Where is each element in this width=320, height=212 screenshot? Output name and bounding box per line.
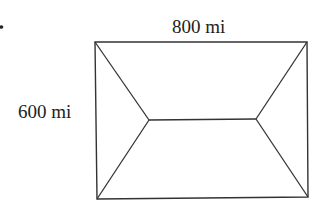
outer-rectangle xyxy=(95,42,308,199)
ridge-line xyxy=(149,119,256,120)
bullet-dot xyxy=(0,25,3,29)
height-label: 600 mi xyxy=(18,101,71,122)
hip-line-top-left xyxy=(95,42,149,120)
hip-line-bottom-right xyxy=(256,119,308,197)
diagram-canvas: 800 mi 600 mi xyxy=(0,0,320,212)
width-label: 800 mi xyxy=(172,16,225,37)
hip-line-bottom-left xyxy=(97,120,149,199)
hip-line-top-right xyxy=(256,42,307,119)
